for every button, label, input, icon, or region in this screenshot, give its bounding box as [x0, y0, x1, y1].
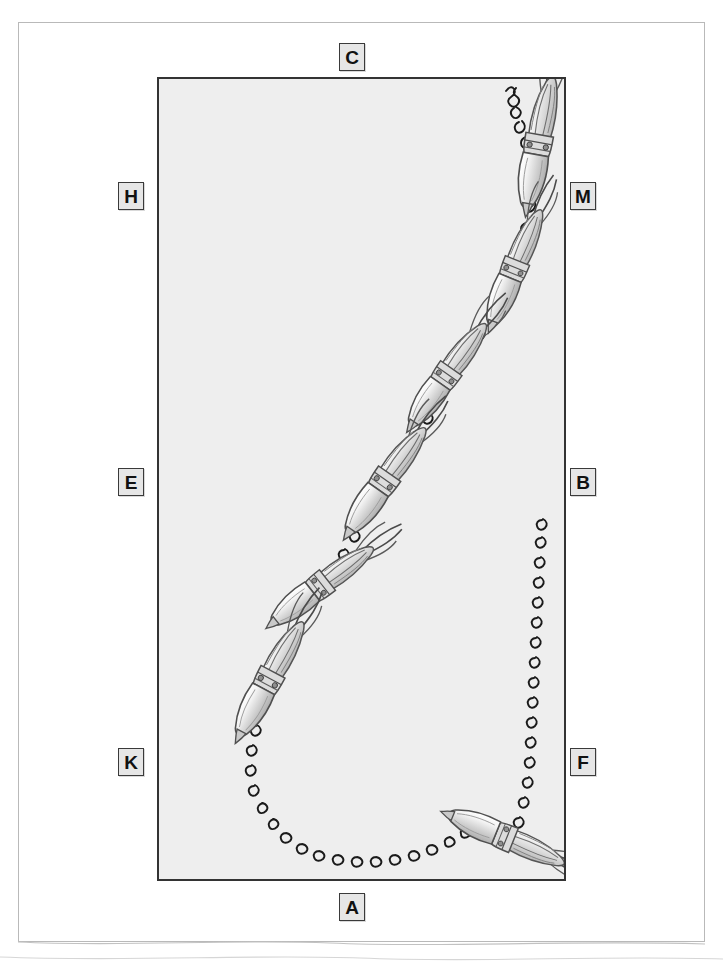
label-h[interactable]: H: [118, 182, 144, 210]
squid-4: [332, 387, 456, 548]
squid-5: [258, 513, 409, 639]
migration-path-bottom-curve: [258, 803, 471, 867]
figure-panel: [157, 77, 566, 881]
label-k[interactable]: K: [118, 748, 144, 776]
label-b[interactable]: B: [570, 468, 596, 496]
squid-7: [436, 799, 564, 879]
label-m[interactable]: M: [570, 182, 596, 210]
label-c[interactable]: C: [339, 43, 365, 71]
label-e[interactable]: E: [118, 468, 144, 496]
squid-migration-artwork: [159, 79, 564, 879]
migration-path-right-branch: [507, 519, 547, 849]
figure-page: C H E K M B F A: [0, 0, 723, 964]
label-f[interactable]: F: [570, 748, 596, 776]
label-a[interactable]: A: [339, 893, 365, 921]
